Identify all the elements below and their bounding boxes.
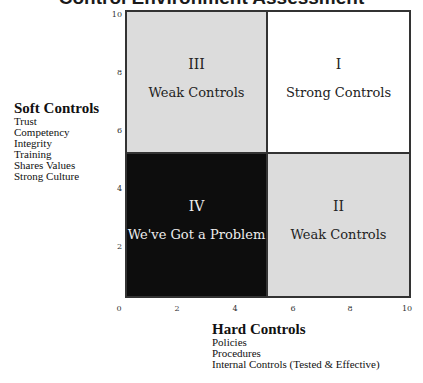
x-tick: 10 [397, 304, 417, 313]
quadrant-label: We've Got a Problem [127, 227, 266, 242]
quadrant-numeral: II [268, 198, 409, 214]
quadrant-numeral: III [127, 56, 266, 72]
x-tick: 6 [283, 304, 303, 313]
x-tick: 8 [340, 304, 360, 313]
soft-controls-legend: Soft Controls Trust Competency Integrity… [14, 101, 99, 182]
y-tick: 4 [110, 184, 122, 193]
hard-controls-heading: Hard Controls [212, 322, 380, 337]
quadrant-numeral: I [268, 56, 409, 72]
quadrant-grid: III Weak Controls I Strong Controls IV W… [125, 10, 411, 298]
y-tick: 10 [110, 10, 122, 19]
hard-controls-legend: Hard Controls Policies Procedures Intern… [212, 322, 380, 370]
quadrant-numeral: IV [127, 198, 266, 214]
quadrant-iii: III Weak Controls [127, 12, 268, 154]
x-tick: 4 [225, 304, 245, 313]
soft-controls-heading: Soft Controls [14, 101, 99, 116]
y-tick: 2 [110, 242, 122, 251]
x-tick: 2 [167, 304, 187, 313]
quadrant-i: I Strong Controls [268, 12, 409, 154]
x-tick: 0 [109, 304, 129, 313]
quadrant-label: Strong Controls [268, 85, 409, 100]
y-tick: 6 [110, 126, 122, 135]
quadrant-iv: IV We've Got a Problem [127, 154, 268, 296]
soft-control-item: Strong Culture [14, 171, 99, 182]
page-title: Control Environment Assessment [0, 0, 423, 9]
y-tick: 8 [110, 68, 122, 77]
hard-control-item: Internal Controls (Tested & Effective) [212, 359, 380, 370]
quadrant-label: Weak Controls [268, 227, 409, 242]
quadrant-label: Weak Controls [127, 85, 266, 100]
quadrant-ii: II Weak Controls [268, 154, 409, 296]
